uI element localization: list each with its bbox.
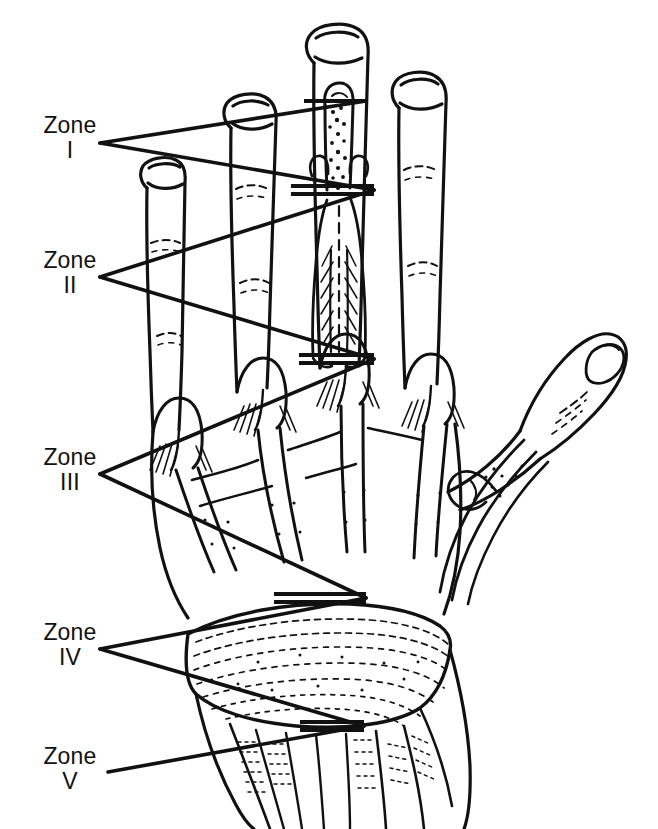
extensor-tendon-zone-figure: Zone I Zone II Zone III Zone IV Zone V xyxy=(0,0,658,829)
zone-label-i-word: Zone xyxy=(30,114,110,137)
zone-label-v: Zone V xyxy=(30,745,110,794)
zone-label-iv-word: Zone xyxy=(30,621,110,644)
zone-label-iv-numeral: IV xyxy=(30,646,110,669)
zone-label-ii-word: Zone xyxy=(30,249,110,272)
zone-label-i: Zone I xyxy=(30,114,110,163)
zone-label-v-numeral: V xyxy=(30,770,110,793)
zone-label-ii: Zone II xyxy=(30,249,110,298)
zone-label-i-numeral: I xyxy=(30,139,110,162)
zone-label-v-word: Zone xyxy=(30,745,110,768)
zone-label-iii-word: Zone xyxy=(30,446,110,469)
zone-label-iv: Zone IV xyxy=(30,621,110,670)
zone-label-iii-numeral: III xyxy=(30,471,110,494)
zone-label-ii-numeral: II xyxy=(30,274,110,297)
zone-label-iii: Zone III xyxy=(30,446,110,495)
